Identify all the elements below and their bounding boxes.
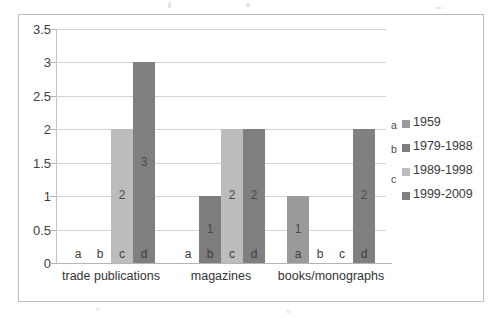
bar-series-letter: d — [243, 247, 265, 261]
bar-series-letter: b — [89, 247, 111, 261]
bar-series-letter: b — [309, 247, 331, 261]
bar-series-letter: a — [287, 247, 309, 261]
legend-item-label: 1959 — [413, 115, 441, 129]
legend-color-swatch — [402, 192, 410, 200]
y-axis-tick-label: 3.5 — [33, 22, 51, 37]
bar-value-label: 1 — [287, 222, 309, 236]
chart-legend: a1959b1979-1988c1989-19981999-2009 — [391, 113, 497, 209]
scan-artifact — [96, 308, 100, 311]
scan-artifact — [168, 2, 171, 8]
bar-value-label: 1 — [199, 222, 221, 236]
bar-value-label: 2 — [221, 188, 243, 202]
legend-item[interactable]: c1989-1998 — [391, 161, 497, 185]
gridline — [56, 29, 386, 30]
legend-item-label: 1979-1988 — [413, 139, 473, 153]
y-axis-tick-label: 2.5 — [33, 88, 51, 103]
y-axis-tick — [50, 62, 56, 63]
legend-item[interactable]: a1959 — [391, 113, 497, 137]
y-axis-labels: 3.532.521.510.50 — [19, 15, 51, 303]
y-axis-tick-label: 1.5 — [33, 155, 51, 170]
bar-value-label: 2 — [111, 188, 133, 202]
scan-artifact — [286, 310, 291, 313]
y-axis-tick — [50, 129, 56, 130]
legend-color-swatch — [402, 144, 410, 152]
bar-series-letter: b — [199, 247, 221, 261]
chart-frame: 3.532.521.510.50 ab2c3da1b2c2d1abc2d tra… — [18, 14, 484, 302]
bar-series-letter: c — [111, 247, 133, 261]
legend-item-label: 1999-2009 — [413, 187, 473, 201]
legend-item-letter: a — [391, 119, 397, 131]
y-axis-tick — [50, 163, 56, 164]
bar-value-label: 3 — [133, 155, 155, 169]
y-axis-tick — [50, 196, 56, 197]
bar-value-label: 2 — [353, 188, 375, 202]
bar-series-letter: a — [177, 247, 199, 261]
plot-area: ab2c3da1b2c2d1abc2d — [56, 29, 386, 263]
x-axis-category-label: books/monographs — [276, 269, 386, 283]
bar-series-letter: d — [353, 247, 375, 261]
gridline — [56, 96, 386, 97]
y-axis-tick — [50, 29, 56, 30]
x-axis-line — [50, 263, 392, 264]
bar-value-label: 2 — [243, 188, 265, 202]
y-axis-tick — [50, 230, 56, 231]
y-axis-tick — [50, 263, 56, 264]
legend-item-letter: b — [391, 143, 397, 155]
legend-item-label: 1989-1998 — [413, 163, 473, 177]
y-axis-tick-label: 0.5 — [33, 222, 51, 237]
x-axis-category-label: magazines — [166, 269, 276, 283]
legend-item[interactable]: b1979-1988 — [391, 137, 497, 161]
legend-item-letter: c — [391, 173, 396, 185]
legend-color-swatch — [402, 168, 410, 176]
legend-item[interactable]: 1999-2009 — [391, 185, 497, 209]
x-axis-category-label: trade publications — [56, 269, 166, 283]
bar-series-letter: c — [221, 247, 243, 261]
bar-series-letter: d — [133, 247, 155, 261]
bar-series-letter: c — [331, 247, 353, 261]
scan-artifact — [246, 3, 250, 7]
bar-series-letter: a — [67, 247, 89, 261]
gridline — [56, 62, 386, 63]
scan-artifact — [436, 7, 441, 9]
y-axis-tick — [50, 96, 56, 97]
legend-color-swatch — [402, 120, 410, 128]
